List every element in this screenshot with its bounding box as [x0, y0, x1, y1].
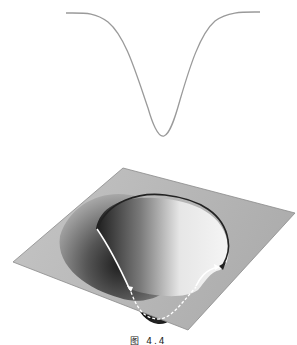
well-profile-curve: [66, 12, 260, 136]
figure-caption: 图 4.4: [0, 336, 297, 345]
figure: 图 4.4: [0, 0, 297, 345]
figure-graphic: [0, 0, 297, 345]
